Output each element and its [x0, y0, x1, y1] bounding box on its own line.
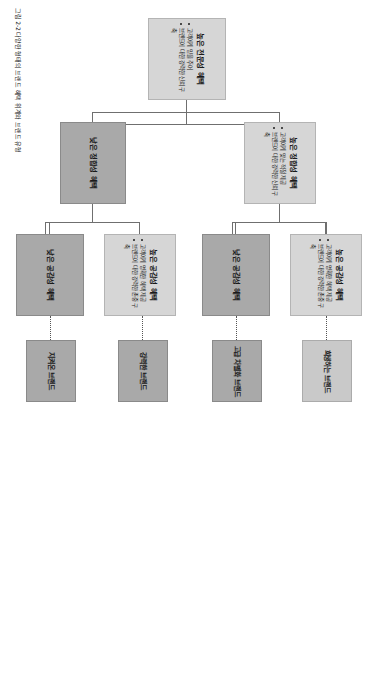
- dotted-connector: [50, 316, 51, 340]
- node-title: 높은 정합성 혜택: [289, 123, 298, 203]
- node-root-left[interactable]: 높은 전문성 혜택 고객에게 믿을 주어 브랜드에 대한 강력한 신뢰 구축: [148, 18, 226, 100]
- bullet-item: 고객에게 믿을 주어: [186, 28, 193, 96]
- node-title: 높은 공감성 혜택: [149, 235, 158, 315]
- node-leaf-1[interactable]: 고급 차별화 브랜드: [212, 340, 262, 402]
- bullet-item: 브랜드에 대한 강력한 존중 구축: [309, 244, 324, 312]
- node-bullets: 고객에게 맞는 적절 제공 브랜드에 대한 강력한 신뢰 구축: [262, 123, 286, 203]
- connector-line: [325, 222, 326, 234]
- node-title: 높은 전문성 혜택: [196, 19, 205, 99]
- connector-line: [236, 222, 326, 223]
- node-level2-0[interactable]: 높은 정합성 혜택 고객에게 맞는 적절 제공 브랜드에 대한 강력한 신뢰 구…: [244, 122, 316, 204]
- connector-line: [50, 222, 140, 223]
- connector-line: [235, 222, 236, 234]
- bullet-item: 브랜드에 대한 강력한 신뢰 구축: [263, 132, 278, 200]
- node-bullets: 고객에게 명확한 혜택 제공 브랜드에 대한 강력한 존중 구축: [122, 235, 146, 315]
- node-title: 지켜온 브랜드: [47, 341, 56, 401]
- connector-line: [93, 112, 280, 113]
- node-bullets: 고객에게 믿을 주어 브랜드에 대한 강력한 신뢰 구축: [169, 19, 193, 99]
- node-leaf-3[interactable]: 지켜온 브랜드: [26, 340, 76, 402]
- node-title: 낮은 정합성 혜택: [88, 123, 97, 203]
- node-level3-1[interactable]: 낮은 공감성 혜택: [202, 234, 270, 316]
- connector-line: [139, 222, 140, 234]
- node-level2-1[interactable]: 낮은 정합성 혜택: [60, 122, 126, 204]
- dotted-connector: [236, 316, 237, 340]
- node-title: 높은 공감성 혜택: [335, 235, 344, 315]
- connector-line: [186, 100, 187, 112]
- connector-line: [49, 222, 50, 234]
- bullet-item: 고객에게 명확한 혜택 제공: [325, 244, 332, 312]
- node-leaf-0[interactable]: 희생하는 브랜드: [302, 340, 352, 402]
- connector-line: [92, 204, 93, 222]
- node-title: 강력한 브랜드: [139, 341, 148, 401]
- bullet-item: 브랜드에 대한 강력한 존중 구축: [123, 244, 138, 312]
- diagram-canvas: 높은 전문성 혜택 고객에게 믿을 주어 브랜드에 대한 강력한 신뢰 구축 낮…: [0, 0, 374, 689]
- node-leaf-2[interactable]: 강력한 브랜드: [118, 340, 168, 402]
- dotted-connector: [326, 316, 327, 340]
- connector-line: [279, 204, 280, 222]
- connector-line: [92, 112, 93, 122]
- node-level3-2[interactable]: 높은 공감성 혜택 고객에게 명확한 혜택 제공 브랜드에 대한 강력한 존중 …: [104, 234, 176, 316]
- node-level3-3[interactable]: 낮은 공감성 혜택: [16, 234, 84, 316]
- node-level3-0[interactable]: 높은 공감성 혜택 고객에게 명확한 혜택 제공 브랜드에 대한 강력한 존중 …: [290, 234, 362, 316]
- node-title: 낮은 공감성 혜택: [45, 235, 54, 315]
- bullet-item: 고객에게 맞는 적절 제공: [279, 132, 286, 200]
- bullet-item: 브랜드에 대한 강력한 신뢰 구축: [170, 28, 185, 96]
- bullet-item: 고객에게 명확한 혜택 제공: [139, 244, 146, 312]
- node-title: 고급 차별화 브랜드: [233, 341, 242, 401]
- node-title: 낮은 공감성 혜택: [231, 235, 240, 315]
- connector-line: [279, 112, 280, 122]
- rotated-page-wrapper: 높은 전문성 혜택 고객에게 믿을 주어 브랜드에 대한 강력한 신뢰 구축 낮…: [0, 0, 374, 689]
- node-title: 희생하는 브랜드: [323, 341, 332, 401]
- node-bullets: 고객에게 명확한 혜택 제공 브랜드에 대한 강력한 존중 구축: [308, 235, 332, 315]
- dotted-connector: [142, 316, 143, 340]
- figure-caption: 그림 2-2 다양한 형태의 브랜드 혜택 위계와 브랜드 유형: [14, 8, 22, 153]
